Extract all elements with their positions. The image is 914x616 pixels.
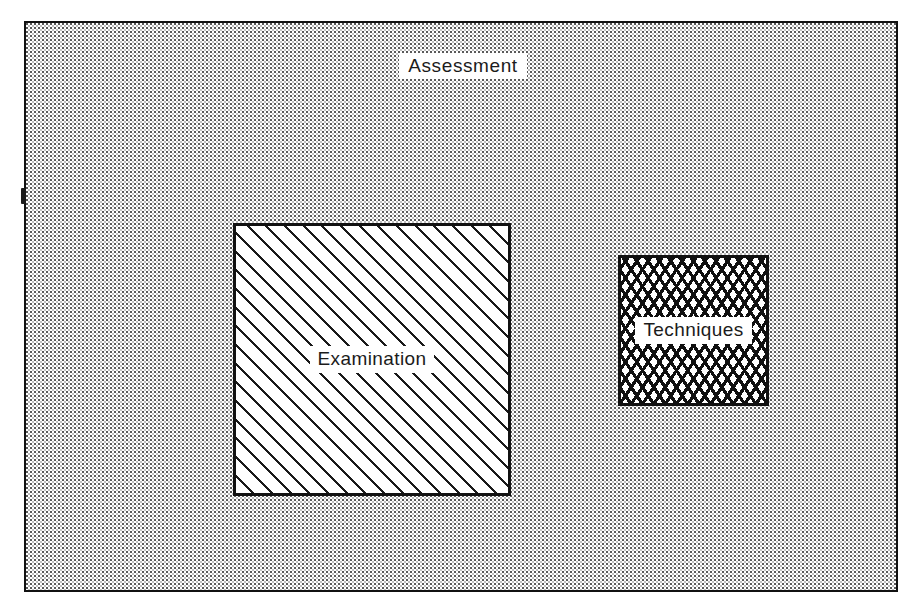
- assessment-title-text: Assessment: [399, 53, 526, 79]
- node-examination: Examination: [233, 223, 511, 496]
- assessment-region: Assessment Examination Techniques: [24, 21, 898, 592]
- node-techniques: Techniques: [618, 255, 769, 406]
- left-edge-tick-artifact: [21, 188, 26, 204]
- node-techniques-label: Techniques: [635, 317, 751, 344]
- assessment-region-title: Assessment: [26, 53, 900, 79]
- scan-canvas: Assessment Examination Techniques: [0, 0, 914, 616]
- node-examination-label: Examination: [310, 346, 435, 373]
